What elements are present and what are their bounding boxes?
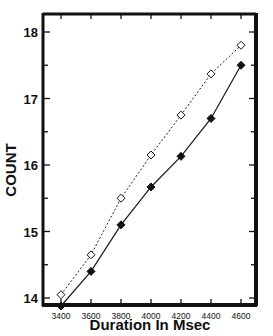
open-diamond-marker <box>207 70 215 78</box>
open-diamond-marker <box>147 151 155 159</box>
data-series <box>57 41 245 310</box>
axis-ticks: 14151617183400360038004000420044004600 <box>24 14 256 321</box>
y-tick-label: 18 <box>24 25 38 40</box>
y-tick-label: 16 <box>24 158 38 173</box>
line-chart: 14151617183400360038004000420044004600 C… <box>0 0 273 336</box>
y-axis-label: COUNT <box>2 143 19 196</box>
y-tick-label: 14 <box>24 291 39 306</box>
y-tick-label: 17 <box>24 92 38 107</box>
filled-diamond-marker <box>237 61 245 69</box>
y-tick-label: 15 <box>24 225 38 240</box>
x-tick-label: 4600 <box>232 311 251 321</box>
open-diamond-marker <box>177 111 185 119</box>
plot-frame <box>42 13 257 306</box>
x-tick-label: 3400 <box>52 311 71 321</box>
open-diamond-marker <box>117 194 125 202</box>
open-diamond-marker <box>57 291 65 299</box>
open-diamond-marker <box>87 251 95 259</box>
x-axis-label: Duration In Msec <box>90 316 211 333</box>
